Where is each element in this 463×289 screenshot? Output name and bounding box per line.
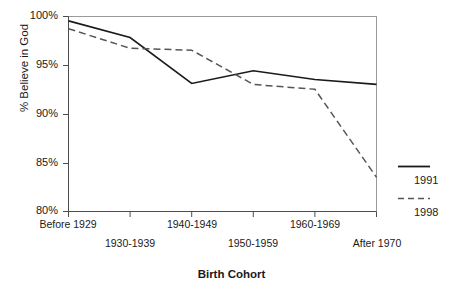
x-axis-title: Birth Cohort <box>0 268 463 280</box>
y-tick-marks <box>63 17 69 212</box>
y-tick-label-100: 100% <box>14 9 58 21</box>
y-tick-label-80: 80% <box>14 204 58 216</box>
y-tick-label-85: 85% <box>14 156 58 168</box>
x-tick-label-after-1970: After 1970 <box>332 237 422 249</box>
legend-label-1991: 1991 <box>414 174 438 186</box>
x-tick-label-before-1929: Before 1929 <box>23 218 113 230</box>
series-line-1991 <box>69 21 377 85</box>
y-tick-label-90: 90% <box>14 107 58 119</box>
x-tick-label-1940-1949: 1940-1949 <box>147 218 237 230</box>
x-tick-label-1930-1939: 1930-1939 <box>85 237 175 249</box>
y-tick-label-95: 95% <box>14 58 58 70</box>
x-tick-marks <box>69 212 377 218</box>
plot-axes <box>69 16 378 212</box>
chart-figure: % Believe in God 100% 95% 90% 85% 80% Be… <box>0 0 463 289</box>
legend-label-1998: 1998 <box>414 206 438 218</box>
x-tick-label-1950-1959: 1950-1959 <box>208 237 298 249</box>
series-line-1998 <box>69 29 377 178</box>
x-tick-label-1960-1969: 1960-1969 <box>270 218 360 230</box>
